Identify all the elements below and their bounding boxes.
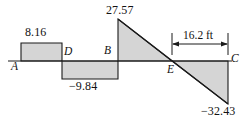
label-value-9-84: −9.84 <box>69 80 97 92</box>
label-point-e: E <box>167 64 174 76</box>
label-value-32-43: −32.43 <box>201 105 235 117</box>
label-point-c: C <box>231 53 239 65</box>
label-point-d: D <box>64 46 72 58</box>
label-value-8-16: 8.16 <box>25 26 46 38</box>
shear-area-db <box>62 61 118 79</box>
label-value-27-57: 27.57 <box>106 4 134 16</box>
dimension-arrow-right <box>221 42 228 47</box>
label-point-b: B <box>104 45 111 57</box>
label-dimension-16-2-ft: 16.2 ft <box>183 30 213 42</box>
dimension-arrow-left <box>172 42 179 47</box>
shear-area-ad <box>21 43 62 61</box>
shear-diagram-figure: 8.16 −9.84 27.57 −32.43 16.2 ft A D B E … <box>0 0 252 123</box>
label-point-a: A <box>11 61 18 73</box>
